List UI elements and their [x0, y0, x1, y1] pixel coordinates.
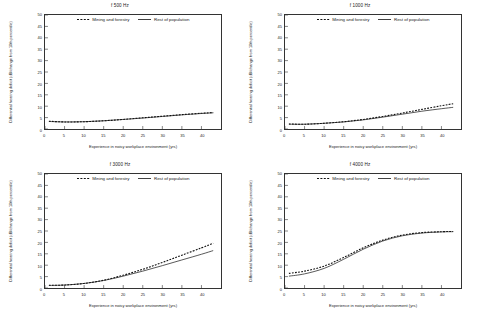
y-tick-label: 0	[40, 287, 42, 292]
y-tick-label: 0	[280, 287, 282, 292]
chart-grid: f 500 Hz Differential hearing deficit (d…	[0, 0, 480, 318]
x-tick-label: 35	[420, 133, 424, 138]
chart-panel-500hz: f 500 Hz Differential hearing deficit (d…	[0, 0, 240, 159]
series-line	[49, 113, 213, 122]
y-tick-label: 50	[38, 12, 42, 17]
y-tick-label: 20	[38, 81, 42, 86]
x-tick-label: 5	[303, 133, 305, 138]
x-tick-label: 20	[121, 133, 125, 138]
x-tick-label: 0	[283, 292, 285, 297]
y-tick-label: 35	[38, 205, 42, 210]
x-axis-label: Experience in noisy workplace environmen…	[44, 303, 222, 308]
y-tick-label: 50	[38, 171, 42, 176]
y-tick-label: 30	[278, 217, 282, 222]
y-tick-label: 25	[38, 229, 42, 234]
series-line	[49, 251, 213, 286]
y-tick-label: 30	[38, 217, 42, 222]
plot-frame	[44, 14, 222, 130]
x-tick-label: 30	[400, 133, 404, 138]
y-tick-label: 50	[278, 12, 282, 17]
y-tick-label: 35	[38, 46, 42, 51]
series-line	[289, 104, 453, 125]
y-tick-label: 20	[278, 81, 282, 86]
x-tick-label: 30	[160, 133, 164, 138]
x-tick-label: 20	[361, 133, 365, 138]
plot-area	[45, 174, 221, 288]
y-tick-label: 25	[278, 229, 282, 234]
y-axis-label: Differential hearing deficit (dB/change …	[246, 173, 256, 289]
panel-title: f 500 Hz	[0, 3, 240, 8]
x-tick-label: 25	[141, 292, 145, 297]
x-axis-label: Experience in noisy workplace environmen…	[284, 144, 462, 149]
y-tick-label: 10	[38, 104, 42, 109]
y-tick-label: 25	[278, 70, 282, 75]
y-axis-label: Differential hearing deficit (dB/change …	[6, 173, 16, 289]
y-tick-label: 15	[38, 252, 42, 257]
x-tick-label: 0	[283, 133, 285, 138]
plot-frame	[44, 173, 222, 289]
y-tick-label: 10	[38, 263, 42, 268]
series-line	[289, 231, 453, 273]
x-tick-label: 35	[420, 292, 424, 297]
series-line	[289, 107, 453, 124]
plot-area	[285, 174, 461, 288]
panel-title: f 3000 Hz	[0, 162, 240, 167]
panel-title: f 1000 Hz	[240, 3, 480, 8]
x-tick-label: 15	[341, 292, 345, 297]
x-tick-label: 10	[81, 292, 85, 297]
y-tick-label: 5	[40, 275, 42, 280]
y-tick-label: 40	[278, 194, 282, 199]
x-axis-label: Experience in noisy workplace environmen…	[284, 303, 462, 308]
y-tick-label: 45	[278, 23, 282, 28]
y-tick-label: 25	[38, 70, 42, 75]
y-tick-label: 45	[38, 23, 42, 28]
x-tick-label: 25	[381, 292, 385, 297]
x-tick-label: 25	[141, 133, 145, 138]
x-tick-label: 40	[440, 133, 444, 138]
plot-frame	[284, 173, 462, 289]
x-tick-label: 25	[381, 133, 385, 138]
x-tick-label: 15	[101, 133, 105, 138]
x-tick-label: 5	[63, 133, 65, 138]
plot-area	[45, 15, 221, 129]
chart-panel-4000hz: f 4000 Hz Differential hearing deficit (…	[240, 159, 480, 318]
x-tick-label: 20	[361, 292, 365, 297]
y-tick-label: 15	[278, 252, 282, 257]
x-tick-label: 40	[200, 292, 204, 297]
y-tick-label: 20	[278, 240, 282, 245]
y-tick-label: 40	[38, 194, 42, 199]
x-tick-label: 0	[43, 292, 45, 297]
x-tick-label: 5	[303, 292, 305, 297]
chart-panel-3000hz: f 3000 Hz Differential hearing deficit (…	[0, 159, 240, 318]
x-tick-label: 0	[43, 133, 45, 138]
series-line	[49, 113, 213, 122]
y-tick-label: 0	[40, 128, 42, 133]
y-tick-label: 40	[278, 35, 282, 40]
x-tick-label: 10	[321, 133, 325, 138]
x-tick-label: 15	[101, 292, 105, 297]
x-tick-label: 10	[321, 292, 325, 297]
y-axis-label: Differential hearing deficit (dB/change …	[246, 14, 256, 130]
y-tick-label: 5	[40, 116, 42, 121]
panel-title: f 4000 Hz	[240, 162, 480, 167]
x-tick-label: 20	[121, 292, 125, 297]
y-tick-label: 35	[278, 205, 282, 210]
plot-area	[285, 15, 461, 129]
y-tick-label: 30	[278, 58, 282, 63]
y-tick-label: 40	[38, 35, 42, 40]
y-tick-label: 50	[278, 171, 282, 176]
x-tick-label: 40	[440, 292, 444, 297]
y-tick-label: 15	[38, 93, 42, 98]
x-tick-label: 10	[81, 133, 85, 138]
y-tick-label: 30	[38, 58, 42, 63]
y-tick-label: 5	[280, 275, 282, 280]
plot-frame	[284, 14, 462, 130]
y-tick-label: 0	[280, 128, 282, 133]
x-axis-label: Experience in noisy workplace environmen…	[44, 144, 222, 149]
y-tick-label: 5	[280, 116, 282, 121]
x-tick-label: 30	[400, 292, 404, 297]
y-tick-label: 15	[278, 93, 282, 98]
series-line	[49, 243, 213, 285]
y-tick-label: 45	[38, 182, 42, 187]
x-tick-label: 35	[180, 133, 184, 138]
